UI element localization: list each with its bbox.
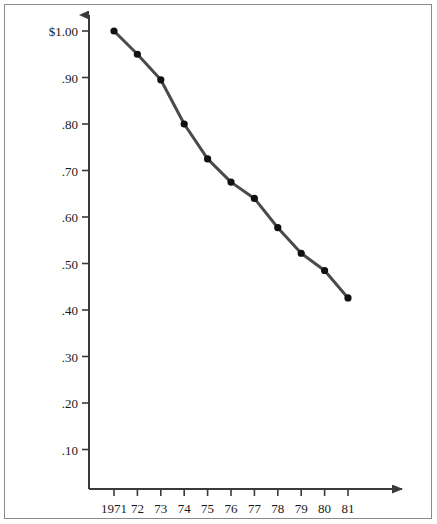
data-point-marker: [181, 120, 188, 127]
data-point-marker: [204, 155, 211, 162]
x-axis-tick-label: 75: [201, 502, 214, 515]
y-axis-tick-label: $1.00: [20, 25, 78, 38]
data-point-marker: [157, 76, 164, 83]
data-point-marker: [227, 179, 234, 186]
y-axis-tick-label: .90: [20, 71, 78, 84]
x-axis-tick-label: 1971: [101, 502, 127, 515]
y-axis-tick-marks: [82, 31, 89, 450]
x-axis-tick-label: 81: [342, 502, 355, 515]
y-axis-tick-label: .70: [20, 164, 78, 177]
x-axis-tick-label: 80: [318, 502, 331, 515]
x-axis-tick-label: 79: [295, 502, 308, 515]
data-point-marker: [298, 250, 305, 257]
data-point-marker: [344, 294, 351, 301]
chart-figure: $1.00.90.80.70.60.50.40.30.20.10 1971727…: [0, 0, 437, 524]
x-axis-tick-label: 76: [225, 502, 238, 515]
x-axis-tick-marks: [114, 489, 348, 496]
data-point-marker: [110, 27, 117, 34]
data-series-line: [114, 31, 348, 298]
y-axis-tick-label: .20: [20, 397, 78, 410]
x-axis-tick-label: 77: [248, 502, 261, 515]
x-axis-tick-label: 78: [271, 502, 284, 515]
y-axis-tick-label: .80: [20, 118, 78, 131]
data-point-marker: [251, 195, 258, 202]
y-axis-tick-label: .30: [20, 350, 78, 363]
data-point-markers: [110, 27, 351, 301]
y-axis-tick-label: .50: [20, 257, 78, 270]
x-axis-tick-label: 73: [154, 502, 167, 515]
data-point-marker: [134, 51, 141, 58]
y-axis-tick-label: .40: [20, 304, 78, 317]
y-axis-tick-label: .10: [20, 443, 78, 456]
data-point-marker: [274, 224, 281, 231]
x-axis-tick-label: 74: [178, 502, 191, 515]
y-axis-tick-label: .60: [20, 211, 78, 224]
data-point-marker: [321, 267, 328, 274]
x-axis-tick-label: 72: [131, 502, 144, 515]
